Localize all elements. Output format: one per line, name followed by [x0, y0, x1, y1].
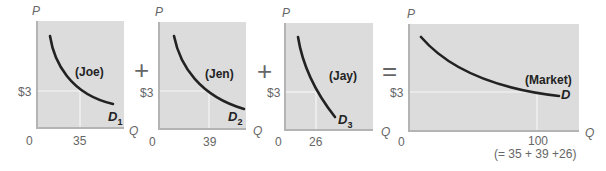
- guide-lines-market: [410, 92, 537, 130]
- guide-lines-jay: [286, 92, 316, 129]
- demand-curves: [0, 0, 606, 171]
- guide-lines-jen: [160, 91, 209, 128]
- demand-curve-market: [421, 37, 559, 96]
- demand-curve-joe: [50, 36, 113, 104]
- guide-lines-joe: [38, 91, 80, 127]
